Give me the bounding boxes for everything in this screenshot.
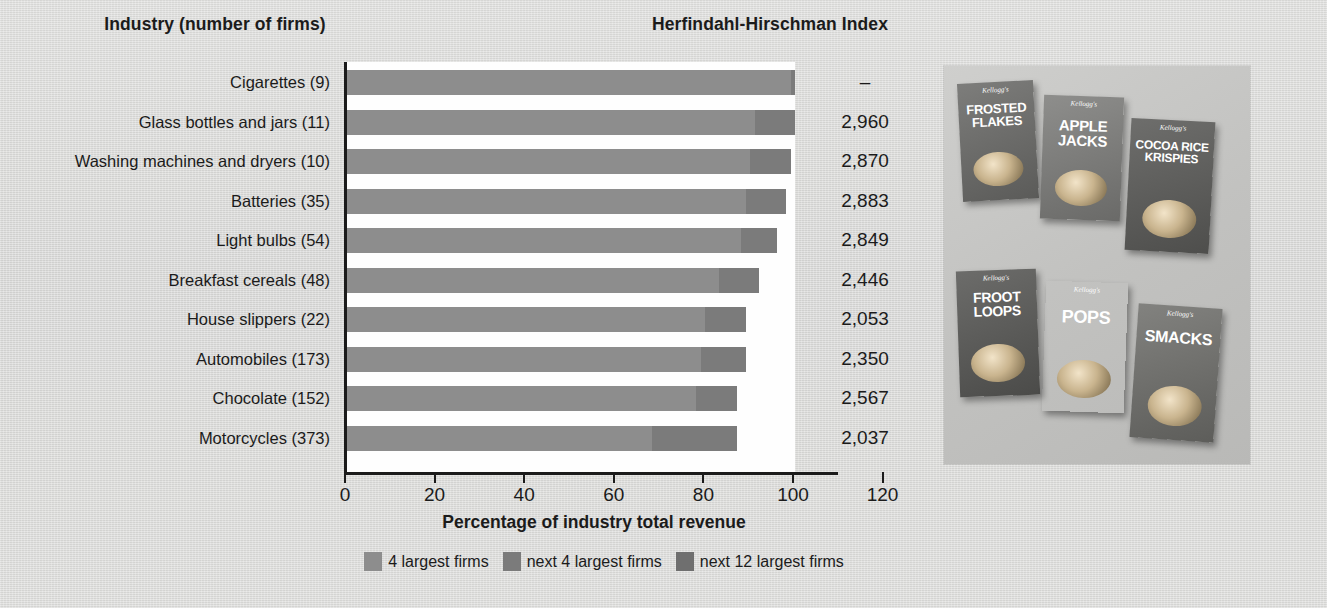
industry-label: Motorcycles (373) <box>0 422 330 454</box>
x-tick <box>882 472 884 483</box>
cereal-box-apple-jacks: Kellogg's APPLE JACKS <box>1040 95 1124 222</box>
stacked-bar <box>347 189 786 214</box>
cereal-brand-label: Kellogg's <box>1138 307 1222 321</box>
legend: 4 largest firmsnext 4 largest firmsnext … <box>344 552 864 571</box>
stacked-bar <box>347 70 795 95</box>
cereal-brand-label: Kellogg's <box>956 273 1036 284</box>
legend-swatch <box>503 552 521 571</box>
legend-item: next 12 largest firms <box>676 552 844 571</box>
x-tick-label: 60 <box>584 484 644 506</box>
stacked-bar <box>347 386 737 411</box>
bar-segment <box>701 347 746 372</box>
cereal-bowl-graphic <box>1056 359 1111 399</box>
hhi-value: 2,350 <box>800 343 930 375</box>
cereal-name-label: SMACKS <box>1136 327 1221 349</box>
cereal-name-label: COCOA RICE KRISPIES <box>1129 138 1214 167</box>
bar-segment <box>652 426 737 451</box>
industry-label: Glass bottles and jars (11) <box>0 106 330 138</box>
hhi-value: 2,883 <box>800 185 930 217</box>
x-tick <box>344 472 346 483</box>
hhi-column-header: Herfindahl-Hirschman Index <box>600 14 940 35</box>
cereal-name-label: FROOT LOOPS <box>957 289 1038 320</box>
x-tick <box>613 472 615 483</box>
legend-label: next 12 largest firms <box>700 553 844 571</box>
x-axis-line <box>344 472 838 475</box>
legend-swatch <box>364 552 382 571</box>
cereal-box-frosted-flakes: Kellogg's FROSTED FLAKES <box>957 80 1039 202</box>
cereal-name-label: APPLE JACKS <box>1042 117 1123 150</box>
bar-segment <box>347 189 746 214</box>
stacked-bar <box>347 307 746 332</box>
hhi-value: 2,037 <box>800 422 930 454</box>
cereal-name-label: FROSTED FLAKES <box>958 100 1035 130</box>
stacked-bar <box>347 268 759 293</box>
cereal-bowl-graphic <box>1146 384 1203 428</box>
cereal-box-cocoa-rice-krispies: Kellogg's COCOA RICE KRISPIES <box>1125 118 1216 254</box>
cereal-brand-label: Kellogg's <box>1046 285 1128 296</box>
cereal-box-pops: Kellogg's POPS <box>1042 281 1128 414</box>
bar-segment <box>347 386 696 411</box>
x-tick <box>523 472 525 483</box>
legend-swatch <box>676 552 694 571</box>
bar-segment <box>755 110 795 135</box>
cereal-boxes-photo: Kellogg's FROSTED FLAKES Kellogg's APPLE… <box>944 66 1250 464</box>
hhi-value: 2,960 <box>800 106 930 138</box>
legend-item: 4 largest firms <box>364 552 488 571</box>
bar-segment <box>347 149 750 174</box>
industry-label: Automobiles (173) <box>0 343 330 375</box>
bar-segment <box>347 307 705 332</box>
legend-item: next 4 largest firms <box>503 552 662 571</box>
cereal-bowl-graphic <box>970 343 1025 383</box>
industry-label: Chocolate (152) <box>0 382 330 414</box>
x-tick-label: 80 <box>673 484 733 506</box>
x-tick <box>792 472 794 483</box>
bar-segment <box>696 386 736 411</box>
hhi-value: 2,870 <box>800 145 930 177</box>
bar-segment <box>347 228 741 253</box>
bar-segment <box>347 70 791 95</box>
x-tick-label: 40 <box>494 484 554 506</box>
bar-segment <box>347 110 755 135</box>
stacked-bar <box>347 347 746 372</box>
legend-label: 4 largest firms <box>388 553 488 571</box>
industry-label: Light bulbs (54) <box>0 224 330 256</box>
bar-segment <box>719 268 759 293</box>
bar-segment <box>750 149 790 174</box>
x-tick <box>434 472 436 483</box>
cereal-box-froot-loops: Kellogg's FROOT LOOPS <box>956 269 1040 398</box>
bar-segment <box>347 268 719 293</box>
industry-label: Breakfast cereals (48) <box>0 264 330 296</box>
hhi-value: – <box>800 66 930 98</box>
cereal-bowl-graphic <box>973 151 1025 188</box>
stacked-bar <box>347 149 791 174</box>
bar-segment <box>741 228 777 253</box>
hhi-value: 2,849 <box>800 224 930 256</box>
industry-label: Batteries (35) <box>0 185 330 217</box>
cereal-name-label: POPS <box>1045 307 1128 328</box>
industry-label: House slippers (22) <box>0 303 330 335</box>
x-tick <box>702 472 704 483</box>
legend-label: next 4 largest firms <box>527 553 662 571</box>
stacked-bar <box>347 426 737 451</box>
cereal-brand-label: Kellogg's <box>1131 122 1215 134</box>
cereal-bowl-graphic <box>1054 169 1107 207</box>
hhi-value: 2,446 <box>800 264 930 296</box>
hhi-value: 2,567 <box>800 382 930 414</box>
cereal-bowl-graphic <box>1141 199 1197 240</box>
hhi-value: 2,053 <box>800 303 930 335</box>
x-axis-title: Percentage of industry total revenue <box>344 512 844 533</box>
x-tick-label: 0 <box>315 484 375 506</box>
figure-root: Industry (number of firms) Herfindahl-Hi… <box>0 0 1327 608</box>
industry-column-header: Industry (number of firms) <box>80 14 350 35</box>
stacked-bar <box>347 228 777 253</box>
industry-label: Cigarettes (9) <box>0 66 330 98</box>
stacked-bar <box>347 110 795 135</box>
industry-label: Washing machines and dryers (10) <box>0 145 330 177</box>
bar-segment <box>347 426 652 451</box>
bar-segment <box>791 70 795 95</box>
x-tick-label: 20 <box>405 484 465 506</box>
bar-segment <box>746 189 786 214</box>
cereal-box-smacks: Kellogg's SMACKS <box>1129 303 1222 443</box>
cereal-brand-label: Kellogg's <box>1044 99 1124 110</box>
bar-segment <box>705 307 745 332</box>
